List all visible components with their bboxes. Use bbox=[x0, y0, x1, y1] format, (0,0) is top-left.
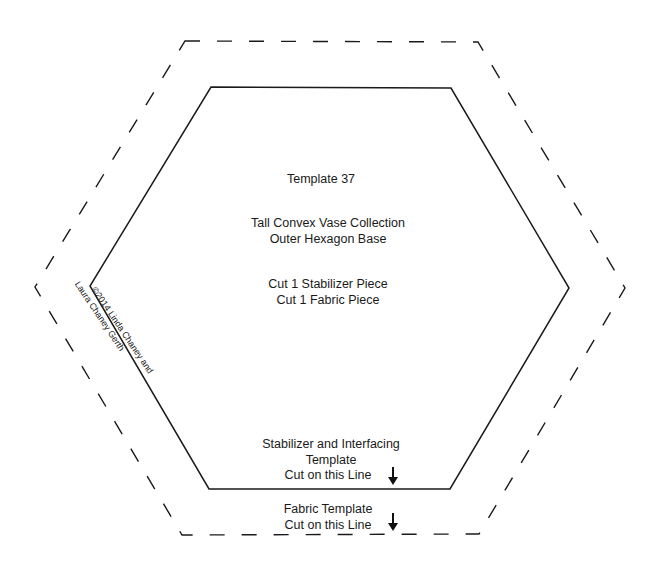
inner-label-line-1: Stabilizer and Interfacing bbox=[262, 436, 400, 452]
outer-label-line-2: Cut on this Line bbox=[285, 517, 372, 533]
collection-name: Tall Convex Vase Collection bbox=[251, 215, 405, 231]
inner-label-line-3: Cut on this Line bbox=[285, 467, 372, 483]
inner-label-line-2: Template bbox=[306, 452, 357, 468]
cut-stabilizer-instruction: Cut 1 Stabilizer Piece bbox=[268, 276, 388, 292]
template-number: Template 37 bbox=[287, 171, 355, 187]
down-arrow-icon bbox=[387, 467, 399, 485]
cut-fabric-instruction: Cut 1 Fabric Piece bbox=[277, 292, 380, 308]
outer-label-line-1: Fabric Template bbox=[284, 501, 373, 517]
piece-name: Outer Hexagon Base bbox=[270, 231, 387, 247]
down-arrow-icon bbox=[387, 513, 399, 531]
